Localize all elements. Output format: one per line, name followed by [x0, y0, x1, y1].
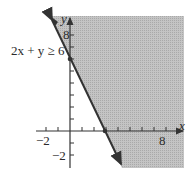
x-tick-label-neg2: −2: [36, 134, 50, 147]
x-axis-label: x: [179, 119, 185, 132]
graph-canvas: [0, 0, 196, 180]
y-intercept-point: [68, 57, 73, 62]
x-tick-label-8: 8: [159, 134, 166, 147]
y-tick-label-neg2: −2: [52, 149, 66, 162]
inequality-label: 2x + y ≥ 6: [11, 44, 64, 57]
x-intercept-point: [103, 129, 108, 134]
y-axis-label: y: [61, 12, 67, 25]
y-tick-label-8: 8: [63, 28, 70, 41]
